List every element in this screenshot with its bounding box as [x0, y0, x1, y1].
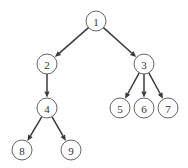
tree-diagram: 123456789 [0, 0, 188, 168]
edge-4-9 [52, 117, 66, 141]
node-2: 2 [37, 54, 57, 74]
edge-4-8 [27, 117, 42, 141]
node-9: 9 [61, 140, 81, 160]
node-7: 7 [158, 98, 178, 118]
edge-2-4 [44, 74, 49, 98]
edge-3-5 [125, 73, 139, 99]
node-3: 3 [134, 54, 154, 74]
edge-1-2 [55, 28, 89, 57]
node-label: 2 [44, 59, 50, 71]
node-label: 7 [165, 103, 171, 115]
node-1: 1 [86, 11, 106, 31]
arrowhead-icon [44, 92, 49, 98]
arrowhead-icon [141, 92, 146, 98]
edge-line [30, 117, 41, 136]
edge-1-3 [103, 28, 136, 57]
node-label: 9 [68, 145, 74, 157]
edge-line [59, 28, 88, 54]
node-label: 3 [141, 59, 147, 71]
edge-3-6 [141, 74, 146, 98]
edges-group [27, 28, 163, 141]
node-label: 6 [141, 103, 147, 115]
node-label: 1 [93, 16, 99, 28]
edge-line [103, 28, 131, 53]
node-4: 4 [37, 98, 57, 118]
node-label: 4 [44, 103, 50, 115]
nodes-group: 123456789 [12, 11, 178, 160]
node-label: 5 [117, 103, 123, 115]
edge-line [52, 117, 63, 136]
node-5: 5 [110, 98, 130, 118]
edge-line [149, 73, 160, 94]
edge-line [128, 73, 139, 94]
node-8: 8 [12, 140, 32, 160]
node-6: 6 [134, 98, 154, 118]
edge-3-7 [149, 73, 163, 99]
node-label: 8 [19, 145, 25, 157]
